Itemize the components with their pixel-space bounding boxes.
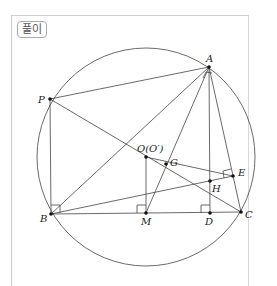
label-B: B	[39, 213, 47, 224]
label-P: P	[37, 94, 45, 105]
label-O: O(O′)	[137, 143, 164, 154]
label-C: C	[245, 209, 253, 220]
label-A: A	[205, 53, 213, 64]
label-D: D	[204, 216, 213, 227]
label-E: E	[237, 167, 246, 178]
label-M: M	[140, 216, 152, 227]
label-G: G	[170, 157, 178, 168]
label-H: H	[211, 183, 221, 194]
